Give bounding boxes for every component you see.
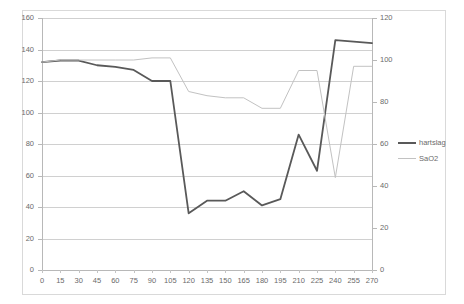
y-axis-left-tick-label: 60 bbox=[10, 172, 34, 180]
y-axis-left-tick-label: 140 bbox=[10, 46, 34, 54]
x-axis-tick-label: 180 bbox=[252, 276, 272, 285]
x-axis-tick-label: 105 bbox=[160, 276, 180, 285]
x-axis-tick-mark bbox=[60, 270, 61, 273]
y-axis-right-tick-mark bbox=[373, 144, 377, 145]
y-axis-right-tick-mark bbox=[373, 102, 377, 103]
y-axis-left-tick-mark bbox=[38, 239, 42, 240]
plot-area bbox=[42, 18, 372, 270]
y-axis-left-tick-label: 120 bbox=[10, 77, 34, 85]
x-axis-tick-label: 255 bbox=[344, 276, 364, 285]
y-axis-left-tick-mark bbox=[38, 176, 42, 177]
x-axis-tick-label: 270 bbox=[362, 276, 382, 285]
x-axis-tick-label: 150 bbox=[215, 276, 235, 285]
y-axis-left-line bbox=[42, 18, 43, 270]
y-axis-left-tick-label: 40 bbox=[10, 203, 34, 211]
x-axis-tick-mark bbox=[372, 270, 373, 273]
x-axis-tick-label: 135 bbox=[197, 276, 217, 285]
gridline bbox=[42, 81, 372, 82]
x-axis-tick-mark bbox=[79, 270, 80, 273]
x-axis-tick-label: 90 bbox=[142, 276, 162, 285]
x-axis-tick-mark bbox=[97, 270, 98, 273]
x-axis-tick-mark bbox=[317, 270, 318, 273]
x-axis-tick-mark bbox=[299, 270, 300, 273]
x-axis-tick-mark bbox=[207, 270, 208, 273]
y-axis-right-tick-label: 120 bbox=[380, 14, 406, 22]
gridline bbox=[42, 207, 372, 208]
chart-container: 020406080100120140160 020406080100120 01… bbox=[0, 0, 464, 304]
y-axis-left-tick-mark bbox=[38, 81, 42, 82]
x-axis-tick-label: 30 bbox=[69, 276, 89, 285]
legend-swatch-hartslag bbox=[398, 142, 416, 144]
y-axis-left-tick-mark bbox=[38, 144, 42, 145]
x-axis-tick-label: 60 bbox=[105, 276, 125, 285]
y-axis-right-tick-label: 100 bbox=[380, 56, 406, 64]
y-axis-right-tick-mark bbox=[373, 186, 377, 187]
x-axis-tick-mark bbox=[335, 270, 336, 273]
x-axis-tick-mark bbox=[189, 270, 190, 273]
x-axis-tick-label: 15 bbox=[50, 276, 70, 285]
gridline bbox=[42, 50, 372, 51]
x-axis-tick-mark bbox=[134, 270, 135, 273]
x-axis-tick-mark bbox=[42, 270, 43, 273]
y-axis-left-tick-label: 0 bbox=[10, 266, 34, 274]
gridline bbox=[42, 144, 372, 145]
y-axis-left-tick-label: 160 bbox=[10, 14, 34, 22]
y-axis-right-tick-label: 40 bbox=[380, 182, 406, 190]
legend-item-hartslag: hartslag bbox=[398, 136, 460, 149]
y-axis-right-tick-mark bbox=[373, 270, 377, 271]
x-axis-tick-label: 210 bbox=[289, 276, 309, 285]
x-axis-tick-label: 75 bbox=[124, 276, 144, 285]
x-axis-tick-mark bbox=[152, 270, 153, 273]
legend-label-hartslag: hartslag bbox=[419, 138, 446, 147]
x-axis-tick-label: 195 bbox=[270, 276, 290, 285]
gridline bbox=[42, 239, 372, 240]
x-axis-tick-label: 120 bbox=[179, 276, 199, 285]
y-axis-right-tick-label: 20 bbox=[380, 224, 406, 232]
y-axis-right-tick-mark bbox=[373, 60, 377, 61]
y-axis-right-tick-mark bbox=[373, 18, 377, 19]
legend-swatch-sao2 bbox=[398, 158, 416, 159]
x-axis-tick-label: 240 bbox=[325, 276, 345, 285]
x-axis-tick-label: 45 bbox=[87, 276, 107, 285]
y-axis-left-tick-mark bbox=[38, 18, 42, 19]
y-axis-left-tick-label: 80 bbox=[10, 140, 34, 148]
chart-legend: hartslag SaO2 bbox=[398, 136, 460, 168]
x-axis-tick-label: 0 bbox=[32, 276, 52, 285]
y-axis-right-tick-label: 80 bbox=[380, 98, 406, 106]
x-axis-tick-mark bbox=[244, 270, 245, 273]
y-axis-left-tick-mark bbox=[38, 207, 42, 208]
y-axis-right-tick-label: 0 bbox=[380, 266, 406, 274]
x-axis-tick-mark bbox=[225, 270, 226, 273]
legend-item-sao2: SaO2 bbox=[398, 152, 460, 165]
gridline bbox=[42, 113, 372, 114]
x-axis-tick-mark bbox=[115, 270, 116, 273]
y-axis-left-tick-mark bbox=[38, 50, 42, 51]
x-axis-tick-mark bbox=[262, 270, 263, 273]
gridline bbox=[42, 18, 372, 19]
y-axis-right-tick-mark bbox=[373, 228, 377, 229]
y-axis-left-tick-label: 100 bbox=[10, 109, 34, 117]
legend-label-sao2: SaO2 bbox=[419, 154, 438, 163]
x-axis-tick-mark bbox=[354, 270, 355, 273]
x-axis-tick-label: 165 bbox=[234, 276, 254, 285]
gridline bbox=[42, 176, 372, 177]
x-axis-tick-label: 225 bbox=[307, 276, 327, 285]
y-axis-left-tick-mark bbox=[38, 113, 42, 114]
x-axis-tick-mark bbox=[170, 270, 171, 273]
x-axis-tick-mark bbox=[280, 270, 281, 273]
y-axis-left-tick-label: 20 bbox=[10, 235, 34, 243]
